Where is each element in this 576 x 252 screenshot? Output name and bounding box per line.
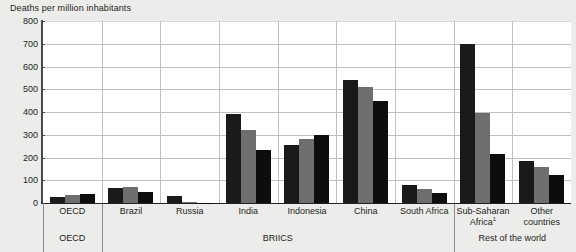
bar <box>373 101 388 203</box>
y-axis-tick-label: 700 <box>4 40 38 49</box>
category-label: China <box>336 206 395 217</box>
y-axis-tick-label: 600 <box>4 63 38 72</box>
bar-group <box>43 21 102 203</box>
y-axis-tick-mark <box>41 67 45 68</box>
band-label: OECD <box>43 233 102 244</box>
bar <box>475 113 490 203</box>
bar-groups <box>43 21 571 203</box>
category-label: Brazil <box>102 206 161 217</box>
category-labels: OECDBrazilRussiaIndiaIndonesiaChinaSouth… <box>43 206 571 234</box>
bar <box>519 161 534 203</box>
y-axis-tick-label: 800 <box>4 17 38 26</box>
bar <box>226 114 241 203</box>
y-axis-tick-labels: 8007006005004003002001000 <box>0 0 38 252</box>
bar <box>256 150 271 203</box>
bar-group <box>219 21 278 203</box>
bar <box>138 192 153 203</box>
category-label: India <box>219 206 278 217</box>
y-axis-tick-label: 500 <box>4 85 38 94</box>
bar <box>65 195 80 203</box>
bar-group <box>395 21 454 203</box>
bar <box>432 193 447 203</box>
bar <box>549 175 564 203</box>
y-axis-tick-mark <box>41 89 45 90</box>
category-label: Othercountries <box>512 206 571 228</box>
y-axis-tick-label: 300 <box>4 131 38 140</box>
bar-group <box>102 21 161 203</box>
y-axis-tick-mark <box>41 21 45 22</box>
bar <box>358 87 373 203</box>
bar <box>343 80 358 203</box>
category-label: Russia <box>160 206 219 217</box>
band-label: Rest of the world <box>454 233 571 244</box>
category-label: Sub-SaharanAfrica1 <box>454 206 513 228</box>
bar-group <box>512 21 571 203</box>
y-axis-tick-mark <box>41 135 45 136</box>
bar <box>314 135 329 203</box>
footnote-marker: 1 <box>493 216 496 222</box>
bar-group <box>160 21 219 203</box>
bar <box>241 130 256 203</box>
bar-group <box>278 21 337 203</box>
bar <box>123 187 138 203</box>
band-separator-left <box>43 204 44 252</box>
bar <box>80 194 95 203</box>
band-label: BRIICS <box>102 233 454 244</box>
category-label: South Africa <box>395 206 454 217</box>
bar-group <box>454 21 513 203</box>
bar <box>417 189 432 203</box>
plot-area <box>43 21 571 203</box>
bar <box>167 196 182 203</box>
category-band-labels: OECDBRIICSRest of the world <box>43 233 571 252</box>
band-separator <box>102 204 103 252</box>
bar <box>299 139 314 203</box>
y-axis-tick-label: 100 <box>4 176 38 185</box>
bar <box>402 185 417 203</box>
y-axis-tick-label: 400 <box>4 108 38 117</box>
bar <box>534 167 549 203</box>
bar <box>50 197 65 203</box>
bar <box>490 154 505 203</box>
category-label: OECD <box>43 206 102 217</box>
category-label: Indonesia <box>278 206 337 217</box>
band-separator <box>454 204 455 252</box>
y-axis-tick-mark <box>41 180 45 181</box>
bar-group <box>336 21 395 203</box>
y-axis-tick-label: 200 <box>4 154 38 163</box>
bar <box>460 44 475 203</box>
bar <box>108 188 123 203</box>
y-axis-tick-mark <box>41 44 45 45</box>
y-axis-tick-label: 0 <box>4 199 38 208</box>
bar <box>284 145 299 203</box>
y-axis-tick-mark <box>41 158 45 159</box>
chart-page: Deaths per million inhabitants 800700600… <box>0 0 576 252</box>
y-axis-tick-mark <box>41 112 45 113</box>
bar <box>182 202 197 203</box>
